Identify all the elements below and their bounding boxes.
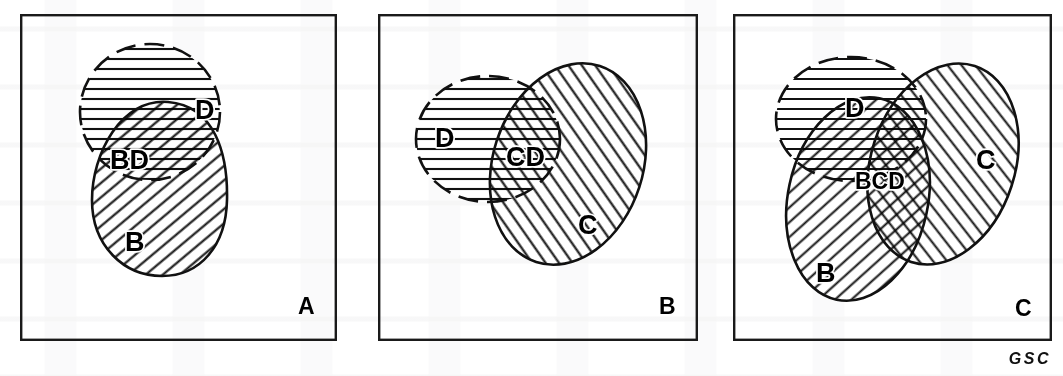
region-CD-fill	[378, 14, 698, 341]
panel-letter-c: C	[1015, 295, 1032, 321]
panel-a: D BD B A	[20, 14, 337, 341]
panel-a-canvas: D BD B A	[20, 14, 337, 341]
set-label-C: C	[578, 210, 598, 240]
figure-credit: GSC	[1009, 350, 1051, 368]
set-label-B: B	[816, 258, 836, 288]
region-label-BD: BD	[110, 145, 149, 175]
set-label-B: B	[125, 227, 145, 257]
panel-c: D BCD B C C	[733, 14, 1052, 341]
set-label-D: D	[845, 93, 865, 123]
set-label-D: D	[195, 95, 215, 125]
panel-b: D CD C B	[378, 14, 698, 341]
panel-c-canvas: D BCD B C C	[733, 14, 1052, 341]
region-label-BCD: BCD	[855, 168, 905, 194]
panel-b-canvas: D CD C B	[378, 14, 698, 341]
venn-diagram-figure: D BD B A	[0, 0, 1063, 376]
region-label-CD: CD	[506, 142, 545, 172]
panel-letter-b: B	[659, 293, 676, 319]
panel-letter-a: A	[298, 293, 315, 319]
set-label-D: D	[435, 123, 455, 153]
set-label-C: C	[976, 145, 996, 175]
